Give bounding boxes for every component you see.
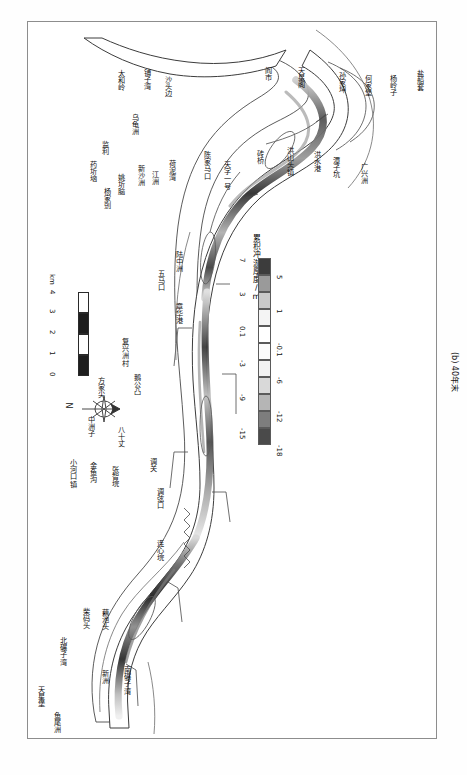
legend-swatch-3-5 bbox=[258, 275, 271, 292]
scale-label-3: 3 bbox=[48, 309, 56, 313]
place-label-zhanghuagang: 章华港 bbox=[176, 303, 183, 325]
place-label-yuweizhou: 鱼尾洲 bbox=[54, 712, 61, 734]
legend-tick-neg3: -3 bbox=[238, 360, 246, 367]
place-label-zhuanqiao: 砖桥 bbox=[257, 150, 264, 164]
legend-colorbar: 累积冲淤厚度/m 7 3 0.1 -3 -9 -15 5 1 -0.1 -6 bbox=[228, 240, 288, 470]
place-label-tianxingge: 天星阁 bbox=[298, 67, 305, 89]
scale-seg-4 bbox=[78, 292, 89, 313]
legend-tick-0.1: 0.1 bbox=[238, 326, 246, 337]
place-label-xiaohekouzhen: 小河口镇 bbox=[70, 459, 77, 488]
place-label-yanshi: 阎市 bbox=[265, 67, 272, 81]
legend-swatch-n9-n6 bbox=[258, 377, 271, 394]
place-label-henniwan: 荷泥湾 bbox=[169, 160, 176, 182]
legend-tick-3: 3 bbox=[238, 292, 246, 296]
legend-swatch-n12-n9 bbox=[258, 394, 271, 411]
scale-unit-km: km bbox=[48, 274, 56, 285]
place-label-tianxingbao: 天星堡 bbox=[38, 686, 45, 708]
place-label-wuguizhou: 乌龟洲 bbox=[132, 114, 139, 136]
figure-panel: 监利 太和岭 铺子湾 沙头边 乌龟洲 姚圻脑 杨家剅 药圻垴 新沙洲 江洲 荷泥… bbox=[0, 0, 467, 775]
place-label-taiheling: 太和岭 bbox=[118, 70, 125, 92]
legend-tick-neg6: -6 bbox=[275, 377, 283, 384]
legend-tick-neg0.1: -0.1 bbox=[275, 343, 283, 357]
place-label-yanglingzi: 杨岭子 bbox=[390, 75, 397, 97]
map-frame: 监利 太和岭 铺子湾 沙头边 乌龟洲 姚圻脑 杨家剅 药圻垴 新沙洲 江洲 荷泥… bbox=[27, 21, 437, 739]
place-label-yaozhuwan: 药圻垴 bbox=[90, 161, 97, 183]
legend-swatch-5-7 bbox=[258, 258, 271, 275]
legend-swatch-1-3 bbox=[258, 292, 271, 309]
scale-seg-3 bbox=[78, 313, 89, 334]
place-label-beiniaanzi: 北碾子湾 bbox=[60, 637, 67, 666]
legend-swatch-n15-n12 bbox=[258, 411, 271, 428]
place-label-wumakou: 五马口 bbox=[158, 270, 165, 292]
scale-label-4: 4 bbox=[48, 290, 56, 294]
place-label-jiangzhou: 江洲 bbox=[152, 171, 159, 185]
north-arrow bbox=[80, 392, 126, 426]
place-label-epgongzhan: 鹅公凸 bbox=[134, 374, 141, 396]
scale-seg-2 bbox=[78, 334, 89, 355]
place-label-hejiabao: 何家堡 bbox=[365, 75, 372, 97]
place-label-guangxingzhou: 广兴洲 bbox=[361, 163, 368, 185]
legend-swatch-n01-01 bbox=[258, 326, 271, 343]
place-label-jianli: 监利 bbox=[102, 141, 109, 155]
legend-tick-7: 7 bbox=[238, 258, 246, 262]
legend-tick-neg12: -12 bbox=[275, 411, 283, 422]
place-label-zhangzhiyuan: 张智垸 bbox=[112, 466, 119, 488]
place-label-yangjialiu: 杨家剅 bbox=[104, 188, 111, 210]
scale-label-2: 2 bbox=[48, 330, 56, 334]
compass-rose-icon bbox=[80, 392, 126, 426]
place-label-nanniaanzi: 南碾子湾 bbox=[124, 666, 131, 695]
place-label-bashizhang: 八十丈 bbox=[118, 426, 125, 448]
place-label-oucitou: 藕池头 bbox=[102, 609, 109, 631]
place-label-xinshazhou: 新沙洲 bbox=[138, 165, 145, 187]
scale-seg-1 bbox=[78, 355, 89, 376]
place-label-hongshantouzhen: 洪山头镇 bbox=[287, 147, 294, 176]
place-label-jinyugou: 金鱼沟 bbox=[90, 462, 97, 484]
scale-bar bbox=[72, 292, 96, 376]
scale-label-0: 0 bbox=[48, 372, 56, 376]
place-label-tianziyihao: 天字一号 bbox=[224, 161, 231, 190]
place-label-xinzhou: 新洲 bbox=[102, 670, 109, 684]
place-label-fuxingzhoucun: 复兴洲村 bbox=[122, 338, 129, 367]
legend-tick-1: 1 bbox=[275, 309, 283, 313]
figure-caption: (b) 40年末 bbox=[450, 352, 461, 392]
legend-tick-neg9: -9 bbox=[238, 394, 246, 401]
place-label-hongshuigang: 洪水港 bbox=[314, 151, 321, 173]
place-label-yaoqinao: 姚圻脑 bbox=[118, 174, 125, 196]
place-label-puziwan: 铺子湾 bbox=[144, 69, 151, 91]
place-label-chaimatou: 柴码头 bbox=[83, 608, 90, 630]
place-label-sunjiaqu: 孙家坤 bbox=[339, 72, 346, 94]
place-label-tanzikeng: 潭子坑 bbox=[333, 157, 340, 179]
north-arrow-label: N bbox=[64, 403, 73, 409]
legend-swatch-n6-n3 bbox=[258, 360, 271, 377]
place-label-shatoubian: 沙头边 bbox=[165, 76, 172, 98]
place-label-lianxinyuan: 连心垸 bbox=[157, 540, 164, 562]
place-label-luzhongzhou: 陆中洲 bbox=[176, 251, 183, 273]
place-label-yanchuantao: 盐船套 bbox=[417, 70, 424, 92]
place-label-diaoxiankou: 调弦口 bbox=[157, 488, 164, 510]
legend-swatch-n18-n15 bbox=[258, 428, 271, 445]
place-label-chenjiamakou: 陈家马口 bbox=[204, 151, 211, 180]
legend-tick-neg18: -18 bbox=[275, 445, 283, 456]
legend-tick-5: 5 bbox=[275, 275, 283, 279]
place-label-diaoguan: 调关 bbox=[150, 458, 157, 472]
legend-tick-neg15: -15 bbox=[238, 428, 246, 439]
legend-swatch-n3-n01 bbox=[258, 343, 271, 360]
scale-label-1: 1 bbox=[48, 351, 56, 355]
legend-swatch-01-1 bbox=[258, 309, 271, 326]
